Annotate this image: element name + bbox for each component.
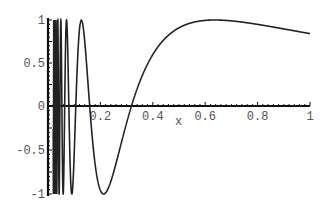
y-tick-label: 0.5 (23, 57, 45, 71)
x-axis-label: x (175, 115, 182, 129)
x-tick-label: 0.4 (142, 110, 164, 124)
y-tick-label: 0 (38, 100, 45, 114)
x-tick-label: 0.6 (194, 110, 216, 124)
y-tick-label: 1 (38, 14, 45, 28)
axes (48, 18, 310, 196)
chart: 0.20.40.60.8110.50-0.5-1 x (0, 0, 328, 209)
x-tick-label: 1 (306, 110, 313, 124)
x-tick-label: 0.2 (90, 110, 112, 124)
x-tick-label: 0.8 (247, 110, 269, 124)
y-tick-label: -0.5 (16, 144, 45, 158)
y-tick-label: -1 (31, 188, 45, 202)
